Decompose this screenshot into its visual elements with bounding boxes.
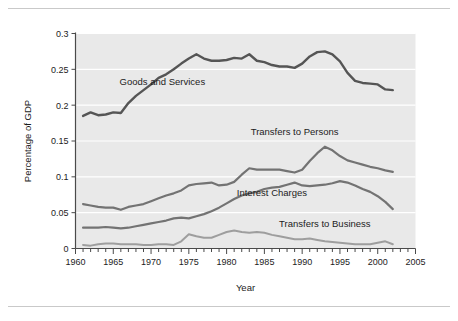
x-tick-label-2000: 2000 (368, 257, 388, 267)
y-tick-label-5: 0.25 (51, 65, 69, 75)
y-tick-label-0: 0 (63, 244, 68, 254)
y-tick-label-3: 0.15 (51, 136, 69, 146)
series-label-interest-charges: Interest Charges (237, 187, 307, 198)
series-label-transfers-to-business: Transfers to Business (279, 218, 371, 229)
y-tick-label-1: 0.05 (51, 208, 69, 218)
series-label-transfers-to-persons: Transfers to Persons (251, 126, 339, 137)
x-tick-label-1990: 1990 (292, 257, 312, 267)
x-tick-label-1985: 1985 (254, 257, 274, 267)
line-chart: 00.050.10.150.20.250.3196019651970197519… (0, 0, 458, 321)
y-tick-label-2: 0.1 (56, 172, 69, 182)
x-tick-label-1965: 1965 (103, 257, 123, 267)
y-axis-title: Percentage of GDP (22, 100, 33, 182)
bottom-divider-rule (8, 306, 450, 307)
y-tick-label-6: 0.3 (56, 29, 69, 39)
x-tick-label-1960: 1960 (65, 257, 85, 267)
x-tick-label-1975: 1975 (179, 257, 199, 267)
series-label-goods-and-services: Goods and Services (120, 76, 206, 87)
x-tick-label-1970: 1970 (141, 257, 161, 267)
x-tick-label-2005: 2005 (405, 257, 425, 267)
top-divider-rule (8, 8, 450, 9)
x-tick-label-1980: 1980 (217, 257, 237, 267)
x-axis-title: Year (236, 282, 255, 293)
x-tick-label-1995: 1995 (330, 257, 350, 267)
chart-figure: 00.050.10.150.20.250.3196019651970197519… (0, 0, 458, 321)
y-tick-label-4: 0.2 (56, 101, 69, 111)
